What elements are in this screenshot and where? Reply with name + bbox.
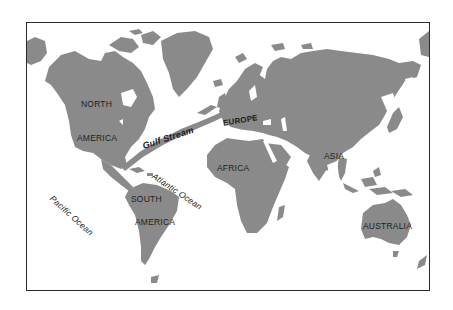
greenland <box>161 31 213 97</box>
label-africa: AFRICA <box>217 164 249 173</box>
label-north: NORTH <box>81 100 112 109</box>
new-zealand <box>417 255 427 269</box>
continents <box>27 23 429 290</box>
label-australia: AUSTRALIA <box>363 222 412 231</box>
japan <box>387 107 403 133</box>
label-north-america: AMERICA <box>77 134 117 143</box>
world-map: NORTH AMERICA EUROPE AFRICA ASIA AUSTRAL… <box>26 22 430 291</box>
madagascar <box>277 205 285 221</box>
label-asia: ASIA <box>324 152 344 161</box>
label-south: SOUTH <box>131 195 162 204</box>
north-america <box>45 51 155 169</box>
alaska-west <box>27 37 47 65</box>
label-south-america: AMERICA <box>135 218 175 227</box>
